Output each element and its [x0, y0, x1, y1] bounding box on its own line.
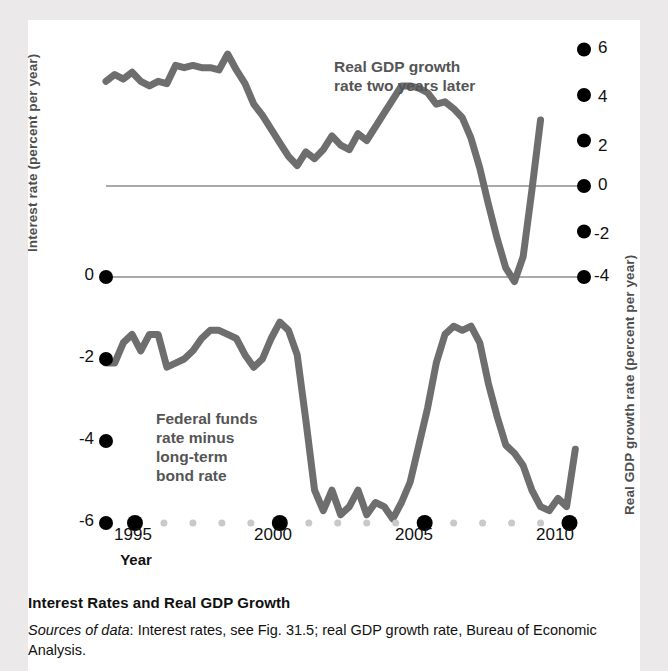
x-axis-title: Year	[96, 551, 176, 568]
left-tick-label-0: 0	[60, 265, 94, 285]
x-tick-dot-minor	[508, 520, 515, 527]
x-tick-dot-minor	[363, 520, 370, 527]
left-axis-tick-dots	[99, 270, 113, 530]
left-tick-label-minus2: -2	[60, 347, 94, 367]
caption-title: Interest Rates and Real GDP Growth	[28, 594, 640, 611]
annotation-ffr-line-3: long-term	[156, 447, 316, 466]
plot-area: 0 -2 -4 -6 6 4 2 0 -2 -4 1995 2000 2005 …	[28, 20, 640, 565]
right-tick-dot	[577, 179, 591, 193]
right-tick-dot	[577, 225, 591, 239]
left-tick-dot	[99, 352, 113, 366]
x-tick-label-1995: 1995	[98, 525, 168, 545]
x-tick-label-2005: 2005	[379, 525, 449, 545]
x-tick-dot-minor	[479, 520, 486, 527]
right-axis-title: Real GDP growth rate (percent per year)	[622, 45, 637, 515]
figure-panel: 0 -2 -4 -6 6 4 2 0 -2 -4 1995 2000 2005 …	[28, 20, 640, 671]
x-tick-dot-minor	[334, 520, 341, 527]
caption-source: Sources of data: Interest rates, see Fig…	[28, 620, 640, 660]
x-tick-dot-minor	[450, 520, 457, 527]
right-tick-dot	[577, 43, 591, 57]
left-tick-label-minus6: -6	[60, 511, 94, 531]
annotation-real-gdp-growth: Real GDP growth rate two years later	[334, 57, 554, 95]
annotation-ffr-line-2: rate minus	[156, 428, 316, 447]
left-axis-title: Interest rate (percent per year)	[25, 0, 40, 252]
x-tick-dot-minor	[189, 520, 196, 527]
x-axis-tick-dots	[127, 515, 578, 531]
x-tick-dot-minor	[218, 520, 225, 527]
annotation-gdp-line-2: rate two years later	[334, 76, 554, 95]
left-tick-dot	[99, 434, 113, 448]
right-tick-dot	[577, 134, 591, 148]
right-axis-tick-dots	[577, 43, 591, 285]
right-tick-dot	[577, 88, 591, 102]
annotation-federal-funds-spread: Federal funds rate minus long-term bond …	[156, 409, 316, 485]
left-tick-dot	[99, 270, 113, 284]
annotation-ffr-line-1: Federal funds	[156, 409, 316, 428]
annotation-gdp-line-1: Real GDP growth	[334, 57, 554, 76]
right-tick-dot	[577, 270, 591, 284]
x-tick-label-2010: 2010	[520, 525, 590, 545]
x-tick-label-2000: 2000	[238, 525, 308, 545]
left-tick-label-minus4: -4	[60, 429, 94, 449]
chart-svg	[28, 20, 640, 565]
figure-caption: Interest Rates and Real GDP Growth Sourc…	[28, 594, 640, 660]
annotation-ffr-line-4: bond rate	[156, 466, 316, 485]
caption-source-prefix: Sources of data	[28, 622, 130, 638]
